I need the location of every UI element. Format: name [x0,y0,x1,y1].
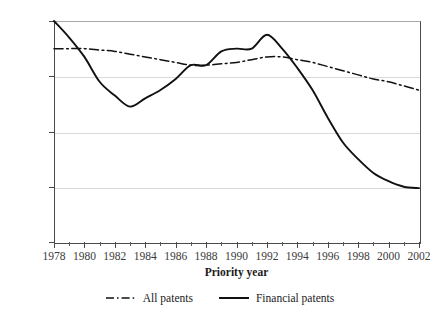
x-tick-mark-minor [282,242,283,246]
legend-swatch-solid-icon [219,293,249,303]
x-axis-title: Priority year [54,266,419,278]
chart-figure: 0%20%40%60%80% 1978198019821984198619881… [0,0,440,320]
x-tick-label: 2002 [399,250,439,262]
x-tick-mark [328,242,329,248]
x-tick-mark-minor [100,242,101,246]
x-tick-mark-minor [404,242,405,246]
legend-item-financial-patents: Financial patents [219,292,334,304]
x-tick-mark-minor [313,242,314,246]
x-tick-mark-minor [221,242,222,246]
x-tick-mark-minor [252,242,253,246]
x-tick-mark-minor [130,242,131,246]
x-tick-mark [419,242,420,248]
legend-label-all-patents: All patents [143,292,193,304]
x-tick-mark-minor [69,242,70,246]
x-tick-mark [389,242,390,248]
x-tick-mark [54,242,55,248]
x-tick-mark [145,242,146,248]
x-tick-mark [176,242,177,248]
x-tick-mark [297,242,298,248]
legend-swatch-dash-dot-icon [106,293,136,303]
x-tick-mark-minor [343,242,344,246]
x-tick-mark [115,242,116,248]
series-container [54,21,419,242]
x-tick-mark [358,242,359,248]
series-line-financial-patents [54,21,419,188]
x-tick-mark [237,242,238,248]
legend-label-financial-patents: Financial patents [256,292,334,304]
chart-legend: All patents Financial patents [0,292,440,304]
x-tick-mark-minor [191,242,192,246]
x-tick-mark-minor [160,242,161,246]
legend-item-all-patents: All patents [106,292,193,304]
series-line-all-patents [54,49,419,91]
x-tick-mark [206,242,207,248]
x-tick-mark-minor [373,242,374,246]
x-tick-mark [267,242,268,248]
x-tick-mark [84,242,85,248]
